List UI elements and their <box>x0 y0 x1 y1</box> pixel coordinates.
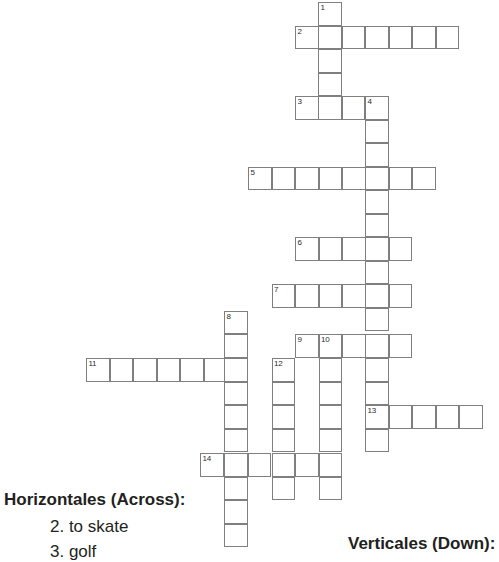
crossword-cell[interactable] <box>272 167 296 191</box>
crossword-cell-number: 6 <box>298 238 302 247</box>
crossword-cell[interactable] <box>389 405 413 429</box>
crossword-cell[interactable] <box>342 237 366 261</box>
crossword-cell-number: 5 <box>251 168 255 177</box>
crossword-cell-numbered[interactable]: 14 <box>200 453 224 477</box>
crossword-cell[interactable] <box>412 405 436 429</box>
crossword-cell-numbered[interactable]: 13 <box>365 405 389 429</box>
crossword-cell[interactable] <box>319 284 343 308</box>
crossword-cell-number: 8 <box>227 312 231 321</box>
down-clues-heading: Verticales (Down): <box>348 534 495 554</box>
crossword-cell[interactable] <box>224 524 248 548</box>
crossword-cell[interactable] <box>272 382 296 406</box>
crossword-cell[interactable] <box>389 284 413 308</box>
crossword-cell[interactable] <box>319 453 343 477</box>
crossword-cell[interactable] <box>365 284 389 308</box>
crossword-cell[interactable] <box>248 453 272 477</box>
crossword-cell[interactable] <box>224 334 248 358</box>
crossword-cell[interactable] <box>365 237 389 261</box>
crossword-cell[interactable] <box>365 382 389 406</box>
crossword-cell[interactable] <box>157 358 181 382</box>
crossword-cell[interactable] <box>224 477 248 501</box>
crossword-cell-number: 11 <box>89 359 97 368</box>
crossword-cell[interactable] <box>365 143 389 167</box>
crossword-cell-numbered[interactable]: 3 <box>295 96 319 120</box>
crossword-cell[interactable] <box>272 405 296 429</box>
crossword-cell[interactable] <box>319 429 343 453</box>
crossword-cell[interactable] <box>342 284 366 308</box>
crossword-cell[interactable] <box>110 358 134 382</box>
crossword-cell-numbered[interactable]: 2 <box>295 26 319 50</box>
crossword-cell[interactable] <box>365 120 389 144</box>
crossword-cell[interactable] <box>295 167 319 191</box>
crossword-cell[interactable] <box>412 26 436 50</box>
crossword-cell[interactable] <box>224 429 248 453</box>
across-clue-item: 2. to skate <box>50 516 128 537</box>
crossword-cell[interactable] <box>342 96 366 120</box>
crossword-cell[interactable] <box>319 382 343 406</box>
crossword-cell[interactable] <box>365 334 389 358</box>
crossword-cell[interactable] <box>180 358 204 382</box>
crossword-cell[interactable] <box>342 26 366 50</box>
crossword-cell[interactable] <box>365 214 389 238</box>
crossword-cell[interactable] <box>342 167 366 191</box>
crossword-cell-numbered[interactable]: 1 <box>318 2 342 26</box>
crossword-cell[interactable] <box>318 26 342 50</box>
crossword-cell[interactable] <box>436 405 460 429</box>
crossword-cell[interactable] <box>365 308 389 332</box>
crossword-cell[interactable] <box>224 405 248 429</box>
crossword-cell[interactable] <box>295 453 319 477</box>
crossword-cell-number: 2 <box>298 27 302 36</box>
crossword-cell-numbered[interactable]: 9 <box>295 334 319 358</box>
crossword-cell-numbered[interactable]: 7 <box>272 284 296 308</box>
crossword-cell[interactable] <box>319 167 343 191</box>
across-clues-heading: Horizontales (Across): <box>4 490 185 510</box>
crossword-cell[interactable] <box>318 96 342 120</box>
crossword-cell[interactable] <box>459 405 483 429</box>
crossword-cell-number: 12 <box>274 359 282 368</box>
crossword-cell[interactable] <box>272 453 296 477</box>
crossword-cell[interactable] <box>389 237 413 261</box>
crossword-cell-numbered[interactable]: 10 <box>319 334 343 358</box>
crossword-cell[interactable] <box>365 429 389 453</box>
crossword-cell[interactable] <box>342 334 366 358</box>
crossword-cell[interactable] <box>319 477 343 501</box>
crossword-cell[interactable] <box>272 477 296 501</box>
crossword-cell[interactable] <box>224 358 248 382</box>
crossword-cell-number: 14 <box>203 454 211 463</box>
crossword-cell-numbered[interactable]: 11 <box>86 358 110 382</box>
crossword-cell[interactable] <box>389 167 413 191</box>
crossword-cell[interactable] <box>319 358 343 382</box>
crossword-cell[interactable] <box>365 190 389 214</box>
crossword-cell[interactable] <box>224 453 248 477</box>
crossword-cell-number: 9 <box>298 335 302 344</box>
crossword-cell[interactable] <box>389 334 413 358</box>
crossword-cell[interactable] <box>318 73 342 97</box>
crossword-cell[interactable] <box>365 261 389 285</box>
crossword-cell[interactable] <box>295 284 319 308</box>
crossword-cell[interactable] <box>319 405 343 429</box>
crossword-cell[interactable] <box>436 26 460 50</box>
crossword-cell-numbered[interactable]: 8 <box>224 311 248 335</box>
crossword-cell-number: 3 <box>298 97 302 106</box>
crossword-cell[interactable] <box>365 167 389 191</box>
crossword-cell[interactable] <box>412 167 436 191</box>
crossword-cell[interactable] <box>319 237 343 261</box>
crossword-cell[interactable] <box>389 26 413 50</box>
crossword-cell[interactable] <box>318 49 342 73</box>
crossword-cell-number: 1 <box>321 3 325 12</box>
crossword-cell-numbered[interactable]: 4 <box>365 96 389 120</box>
crossword-cell[interactable] <box>133 358 157 382</box>
crossword-cell-number: 10 <box>321 335 329 344</box>
crossword-cell-numbered[interactable]: 5 <box>248 167 272 191</box>
crossword-cell[interactable] <box>224 500 248 524</box>
crossword-cell-numbered[interactable]: 12 <box>272 358 296 382</box>
crossword-cell[interactable] <box>224 382 248 406</box>
crossword-cell[interactable] <box>365 26 389 50</box>
crossword-cell[interactable] <box>272 429 296 453</box>
crossword-cell[interactable] <box>365 358 389 382</box>
across-clue-item: 3. golf <box>50 541 96 562</box>
crossword-cell-number: 13 <box>368 406 376 415</box>
crossword-cell-numbered[interactable]: 6 <box>295 237 319 261</box>
